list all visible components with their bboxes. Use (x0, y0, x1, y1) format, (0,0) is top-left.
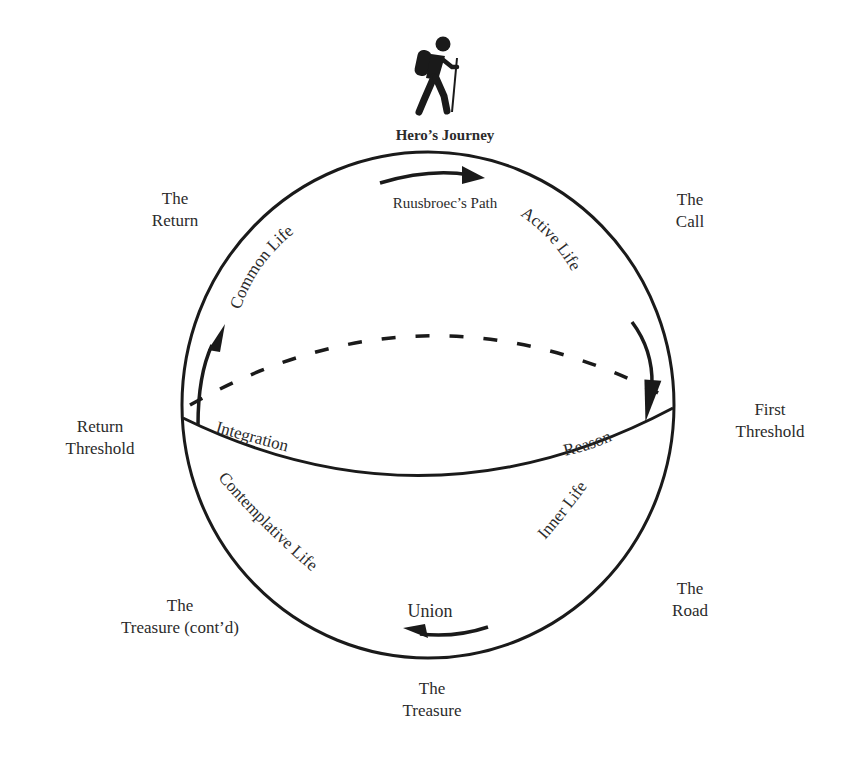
stage-the-treasure: The Treasure (382, 678, 482, 722)
label-union: Union (395, 600, 465, 622)
heros-journey-diagram: Active Life Common Life Integration Reas… (0, 0, 851, 757)
stage-the-road: The Road (655, 578, 725, 622)
label-active-life: Active Life (518, 203, 585, 274)
arrow-right (632, 322, 661, 423)
stage-return-threshold: Return Threshold (45, 416, 155, 460)
arrow-left (198, 324, 225, 425)
equator-back (190, 336, 668, 405)
arrow-bottom (403, 624, 488, 638)
stage-the-return: The Return (130, 188, 220, 232)
hiker-icon (413, 37, 457, 113)
label-integration: Integration (214, 418, 291, 456)
label-reason: Reason (561, 426, 614, 459)
heros-journey-title: Hero’s Journey (385, 124, 505, 146)
label-inner-life: Inner Life (534, 478, 591, 543)
arrow-top (380, 166, 485, 184)
label-common-life: Common Life (226, 221, 297, 311)
stage-the-call: The Call (655, 189, 725, 233)
stage-first-threshold: First Threshold (715, 399, 825, 443)
stage-the-treasure-contd: The Treasure (cont’d) (90, 595, 270, 639)
ruusbroecs-path-title: Ruusbroec’s Path (365, 192, 525, 214)
sphere-outline (182, 152, 674, 658)
